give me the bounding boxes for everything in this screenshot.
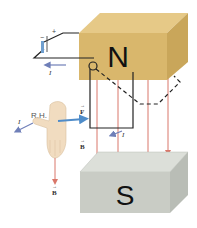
north-pole-label: N [107,40,129,73]
current-arrow-bottom [112,131,122,135]
field-label: B [80,143,85,151]
current-label-bottom: I [121,131,125,139]
hand-field-label: B [52,189,57,197]
battery-minus-label: − [40,34,44,41]
hand-field-vector-mark: → [52,183,57,189]
force-label: F [80,108,84,116]
hand-current-label: I [17,118,21,126]
current-label-top: I [48,69,52,77]
battery-plus-label: + [52,28,56,35]
south-pole-label: S [116,180,135,211]
magnetic-force-diagram: S N + − I I R.H. I F → B → [0,0,197,228]
force-vector-mark: → [80,102,85,108]
south-magnet: S [80,152,188,213]
right-hand-illustration: R.H. [31,102,66,158]
field-vector-mark: → [80,137,85,143]
